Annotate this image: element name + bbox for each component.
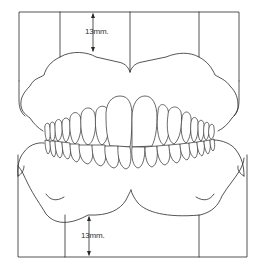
- lower-base-frame: [18, 155, 247, 257]
- lower-measurement-label: 13mm.: [81, 231, 104, 240]
- dental-diagram: 13mm. 13mm.: [0, 0, 258, 271]
- upper-teeth: [45, 96, 214, 147]
- upper-base-frame: [19, 12, 239, 81]
- dental-arch-drawing: [0, 0, 258, 271]
- upper-measurement-label: 13mm.: [85, 27, 108, 36]
